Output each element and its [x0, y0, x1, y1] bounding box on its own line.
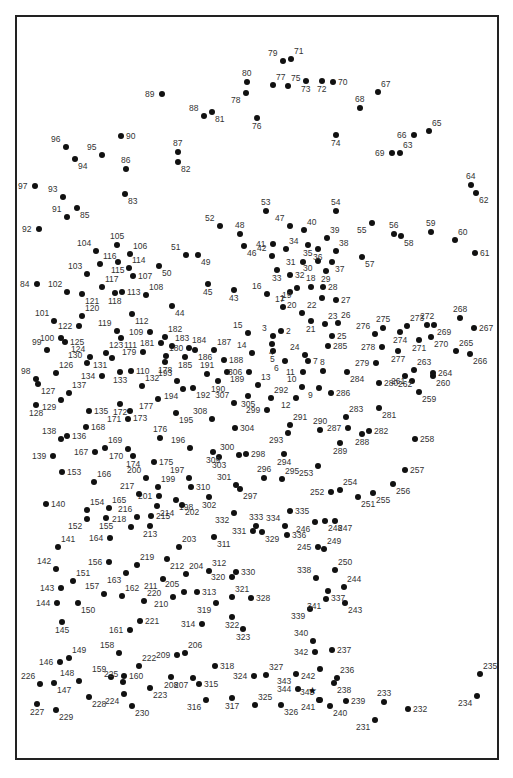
- dot-label: 154: [90, 498, 104, 507]
- dot-label: 295: [285, 467, 299, 476]
- dot-label: 58: [404, 239, 413, 248]
- dot-label: 57: [365, 260, 374, 269]
- dot-328: [248, 595, 254, 601]
- dot-244: [341, 584, 347, 590]
- dot-105: [114, 242, 120, 248]
- dot-label: 27: [341, 296, 350, 305]
- dot-87: [175, 149, 181, 155]
- dot-label: 142: [37, 557, 51, 566]
- dot-79: [280, 58, 286, 64]
- dot-148: [76, 678, 82, 684]
- dot-label: 266: [473, 357, 487, 366]
- dot-343: [293, 671, 299, 677]
- dot-116: [97, 261, 103, 267]
- dot-88: [201, 113, 207, 119]
- dot-label: 262: [398, 380, 412, 389]
- dot-label: 188: [229, 356, 243, 365]
- dot-label: 8: [320, 358, 325, 367]
- dot-label: 288: [355, 438, 369, 447]
- dot-label: 109: [129, 328, 143, 337]
- dot-label: 177: [139, 402, 153, 411]
- dot-103: [84, 271, 90, 277]
- dot-label: 289: [333, 447, 347, 456]
- dot-label: 260: [436, 379, 450, 388]
- dot-183: [169, 343, 175, 349]
- dot-18: [308, 284, 314, 290]
- dot-label: 66: [397, 131, 406, 140]
- dot-108: [143, 292, 149, 298]
- dot-label: 170: [109, 452, 123, 461]
- dot-label: 253: [299, 469, 313, 478]
- dot-label: 63: [403, 141, 412, 150]
- dot-314: [199, 621, 205, 627]
- dot-label: 20: [287, 301, 296, 310]
- dot-313: [194, 589, 200, 595]
- dot-label: 87: [173, 139, 182, 148]
- dot-163: [123, 570, 129, 576]
- dot-324: [251, 673, 257, 679]
- dot-272: [424, 322, 430, 328]
- dot-label: 34: [289, 237, 298, 246]
- dot-label: 62: [479, 196, 488, 205]
- dot-26: [335, 320, 341, 326]
- dot-338: [313, 575, 319, 581]
- dot-label: 85: [80, 211, 89, 220]
- dot-label: 73: [301, 85, 310, 94]
- dot-136: [64, 433, 70, 439]
- dot-16: [264, 291, 270, 297]
- dot-156: [106, 559, 112, 565]
- dot-22: [319, 295, 325, 301]
- dot-label: 144: [36, 599, 50, 608]
- dot-114: [126, 265, 132, 271]
- dot-298: [243, 451, 249, 457]
- dot-315: [196, 681, 202, 687]
- dot-label: 12: [281, 401, 290, 410]
- dot-label: 7: [313, 357, 318, 366]
- dot-129: [58, 397, 64, 403]
- dot-label: 6: [274, 364, 279, 373]
- dot-label: 18: [306, 274, 315, 283]
- dot-label: 131: [93, 361, 107, 370]
- dot-label: 90: [126, 132, 135, 141]
- dot-162: [119, 593, 125, 599]
- dot-label: 42: [257, 244, 266, 253]
- dot-38: [333, 248, 339, 254]
- dot-276: [372, 331, 378, 337]
- dot-label: 301: [217, 473, 231, 482]
- dot-287: [345, 425, 351, 431]
- dot-label: 114: [132, 256, 146, 265]
- dot-label: 96: [51, 135, 60, 144]
- dot-283: [343, 414, 349, 420]
- dot-134: [99, 373, 105, 379]
- dot-label: 103: [68, 262, 82, 271]
- dot-226: [37, 681, 43, 687]
- dot-246: [312, 519, 318, 525]
- dot-label: 162: [125, 584, 139, 593]
- dot-61: [472, 250, 478, 256]
- dot-335: [287, 508, 293, 514]
- dot-254: [337, 487, 343, 493]
- dot-label: 61: [480, 249, 489, 258]
- dot-label: 36: [313, 253, 322, 262]
- dot-12: [293, 395, 299, 401]
- dot-336: [284, 532, 290, 538]
- dot-60: [452, 237, 458, 243]
- dot-label: 55: [357, 226, 366, 235]
- dot-label: 37: [335, 265, 344, 274]
- dot-42: [269, 253, 275, 259]
- dot-201: [156, 493, 162, 499]
- dot-label: 309: [206, 456, 220, 465]
- dot-label: 157: [85, 582, 99, 591]
- dot-340: [310, 638, 316, 644]
- dot-139: [50, 453, 56, 459]
- dot-label: 296: [257, 465, 271, 474]
- dot-label: 2: [286, 327, 291, 336]
- dot-280: [376, 380, 382, 386]
- dot-216: [134, 514, 140, 520]
- dot-10: [299, 384, 305, 390]
- dot-label: 193: [158, 369, 172, 378]
- dot-label: 125: [70, 338, 84, 347]
- dot-327: [263, 672, 269, 678]
- dot-label: 192: [196, 391, 210, 400]
- dot-label: 137: [72, 381, 86, 390]
